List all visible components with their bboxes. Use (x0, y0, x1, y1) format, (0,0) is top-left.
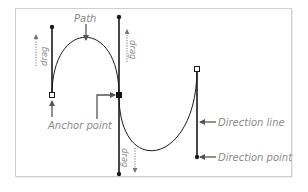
path-curve-bottom (119, 69, 197, 151)
path-curve-top (52, 37, 119, 95)
drag-label-middle-bottom: drag (120, 148, 130, 168)
anchor-point-right[interactable] (195, 67, 200, 72)
direction-point-label: Direction point (218, 152, 293, 163)
direction-point-middle-bottom[interactable] (117, 172, 121, 176)
drag-label-left: drag (39, 46, 49, 66)
direction-line-label: Direction line (218, 117, 285, 128)
anchor-point-middle[interactable] (116, 92, 122, 98)
anchor-point-left[interactable] (50, 93, 55, 98)
direction-point-right-bottom[interactable] (195, 155, 199, 159)
path-label: Path (74, 13, 96, 24)
bezier-diagram: Path Anchor point Direction line Directi… (0, 0, 308, 192)
anchor-point-label: Anchor point (47, 120, 113, 131)
anchor-label-arrow-bent (97, 95, 115, 119)
direction-point-left-top[interactable] (50, 25, 54, 29)
direction-point-middle-top[interactable] (117, 15, 121, 19)
drag-label-middle-top: drag (128, 40, 138, 60)
